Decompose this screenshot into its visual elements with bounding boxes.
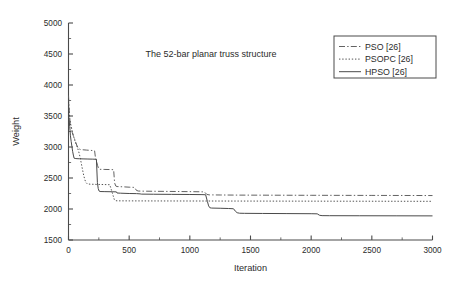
chart-figure: 1500200025003000350040004500500005001000… <box>0 0 454 289</box>
legend-label: HPSO [26] <box>365 67 407 77</box>
x-tick-label: 2500 <box>363 246 382 255</box>
y-tick-label: 2000 <box>44 205 63 214</box>
legend-label: PSOPC [26] <box>365 54 413 64</box>
y-tick-label: 4500 <box>44 50 63 59</box>
legend-label: PSO [26] <box>365 42 401 52</box>
x-tick-label: 1500 <box>241 246 260 255</box>
y-tick-label: 3000 <box>44 143 63 152</box>
chart-legend: PSO [26]PSOPC [26]HPSO [26] <box>334 36 436 78</box>
data-series <box>69 96 433 216</box>
x-tick-label: 1000 <box>181 246 200 255</box>
y-tick-label: 5000 <box>44 19 63 28</box>
y-tick-label: 1500 <box>44 236 63 245</box>
convergence-line-chart: 1500200025003000350040004500500005001000… <box>0 0 454 289</box>
x-tick-label: 2000 <box>302 246 321 255</box>
series-line-pso-26 <box>69 96 433 196</box>
series-line-psopc-26 <box>69 99 433 202</box>
annotation-label: The 52-bar planar truss structure <box>145 49 276 59</box>
chart-annotation: The 52-bar planar truss structure <box>145 49 276 59</box>
y-axis-title: Weight <box>11 117 21 146</box>
x-tick-label: 500 <box>122 246 136 255</box>
y-tick-label: 2500 <box>44 174 63 183</box>
x-tick-label: 0 <box>66 246 71 255</box>
x-axis-title: Iteration <box>234 263 267 273</box>
x-tick-label: 3000 <box>423 246 442 255</box>
y-tick-label: 3500 <box>44 112 63 121</box>
y-tick-label: 4000 <box>44 81 63 90</box>
